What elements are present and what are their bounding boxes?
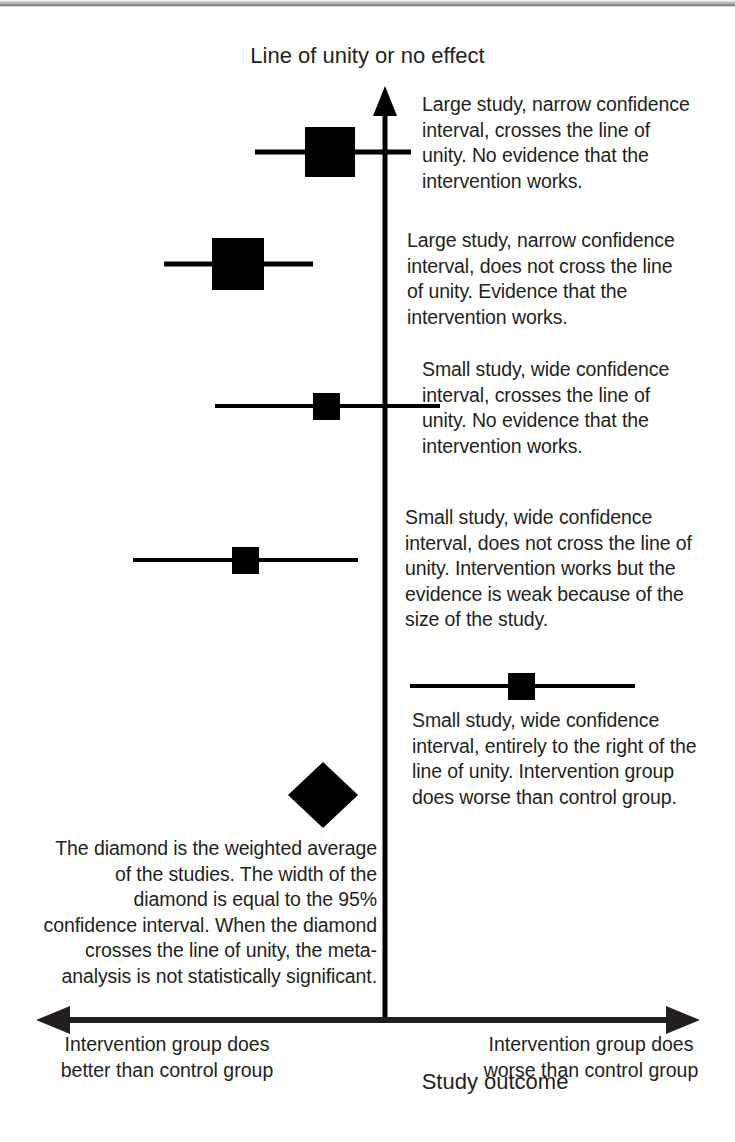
annotation-study-2: Large study, narrow confidence interval,… xyxy=(407,228,690,330)
study-marker-2 xyxy=(164,238,313,290)
annotation-diamond: The diamond is the weighted average of t… xyxy=(40,836,377,989)
study-marker-3 xyxy=(215,393,440,420)
axis-label-left: Intervention group does better than cont… xyxy=(42,1032,292,1083)
axis-title-study-outcome: Study outcome xyxy=(380,1068,610,1096)
study-outcome-axis xyxy=(36,1006,700,1034)
study-marker-5 xyxy=(410,673,635,700)
annotation-study-4: Small study, wide confidence interval, d… xyxy=(405,505,695,633)
pooled-estimate-diamond xyxy=(288,762,358,828)
study-marker-4 xyxy=(133,547,358,574)
annotation-study-5: Small study, wide confidence interval, e… xyxy=(412,708,697,810)
annotation-study-3: Small study, wide confidence interval, c… xyxy=(422,357,694,459)
annotation-study-1: Large study, narrow confidence interval,… xyxy=(422,92,694,194)
study-marker-1 xyxy=(255,127,411,177)
forest-plot-figure: Line of unity or no effect xyxy=(0,0,735,1142)
